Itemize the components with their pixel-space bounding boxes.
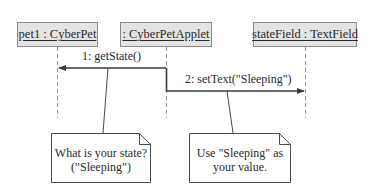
- message-1-label: 1: getState(): [82, 49, 141, 64]
- object-pet1-label: pet1 : CyberPet: [19, 27, 97, 42]
- object-cyberpetapplet: : CyberPetApplet: [120, 22, 212, 47]
- note-2-line-2: your value.: [190, 160, 290, 174]
- object-statefield: stateField : TextField: [253, 22, 357, 47]
- note-2-line-1: Use "Sleeping" as: [190, 146, 290, 160]
- note-2-connector: [227, 91, 233, 133]
- note-2: Use "Sleeping" as your value.: [190, 146, 290, 174]
- object-pet1: pet1 : CyberPet: [17, 22, 98, 47]
- note-1-line-2: ("Sleeping"): [52, 160, 150, 174]
- message-2-label: 2: setText("Sleeping"): [185, 72, 292, 87]
- note-1: What is your state? ("Sleeping"): [52, 146, 150, 174]
- note-1-line-1: What is your state?: [52, 146, 150, 160]
- object-cyberpetapplet-label: : CyberPetApplet: [122, 27, 209, 42]
- sequence-diagram: pet1 : CyberPet : CyberPetApplet stateFi…: [0, 0, 373, 196]
- object-statefield-label: stateField : TextField: [252, 27, 358, 42]
- note-1-connector: [103, 68, 108, 133]
